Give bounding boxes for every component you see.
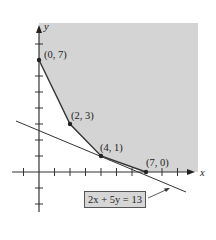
vertex-label: (0, 7) [44,49,67,61]
vertex-label: (7, 0) [146,157,169,169]
y-axis-label: y [43,21,49,32]
vertex-point [99,154,103,158]
vertex-point [68,122,72,126]
vertex-point [144,170,148,174]
vertex-point [37,58,41,62]
x-axis-label: x [199,167,205,178]
vertex-label: (2, 3) [71,110,94,122]
equation-label: 2x + 5y = 13 [84,191,146,208]
callout-arrow-head-icon [164,188,170,192]
callout-arrow [148,189,168,198]
vertex-label: (4, 1) [100,142,123,154]
